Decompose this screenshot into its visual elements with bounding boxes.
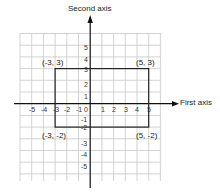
x-tick: -2 — [64, 106, 70, 113]
coordinate-plane — [0, 0, 220, 193]
y-tick: -2 — [81, 124, 87, 131]
point-label-bottom-left: (-3, -2) — [42, 132, 66, 140]
x-tick: 0 — [84, 106, 88, 113]
y-tick: 3 — [84, 66, 88, 73]
x-tick: -5 — [29, 106, 35, 113]
x-tick: 1 — [101, 106, 105, 113]
point-label-bottom-right: (5, -2) — [136, 132, 157, 140]
y-tick: -1 — [81, 116, 87, 123]
y-axis-label: Second axis — [68, 5, 112, 13]
x-tick: 4 — [135, 106, 139, 113]
point-label-top-right: (5, 3) — [136, 59, 155, 67]
y-axis-arrowhead — [88, 15, 93, 23]
x-tick: -4 — [41, 106, 47, 113]
y-tick: -3 — [81, 140, 87, 147]
y-tick: -4 — [81, 151, 87, 158]
y-tick: 2 — [84, 81, 88, 88]
x-tick: 2 — [112, 106, 116, 113]
x-axis-label: First axis — [180, 99, 212, 107]
y-tick: 4 — [84, 56, 88, 63]
x-tick: -1 — [76, 106, 82, 113]
point-label-top-left: (-3, 3) — [42, 59, 63, 67]
x-tick: 3 — [124, 106, 128, 113]
y-tick: 5 — [84, 44, 88, 51]
y-tick: -5 — [81, 163, 87, 170]
y-tick: 1 — [84, 93, 88, 100]
x-tick: -3 — [53, 106, 59, 113]
x-tick: 5 — [147, 106, 151, 113]
x-axis-arrowhead — [172, 101, 179, 106]
